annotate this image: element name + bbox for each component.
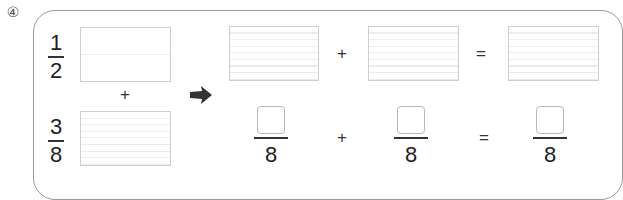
- problem-number: ④: [5, 4, 21, 20]
- fraction-bar: [533, 137, 567, 139]
- plus-operator: +: [332, 44, 352, 64]
- denominator: 8: [394, 143, 428, 167]
- denominator: 2: [48, 59, 64, 83]
- fraction-three-eighths: 3 8: [48, 115, 64, 167]
- equals-operator: =: [474, 128, 494, 148]
- answer-model-box-3[interactable]: [508, 26, 599, 81]
- fraction-bar: [254, 137, 288, 139]
- denominator: 8: [48, 143, 64, 167]
- fraction-one-half: 1 2: [48, 31, 64, 83]
- model-box-eighths[interactable]: [80, 111, 171, 166]
- denominator: 8: [533, 143, 567, 167]
- right-arrow-icon: [188, 85, 214, 105]
- answer-model-box-1[interactable]: [229, 26, 319, 81]
- model-box-halves[interactable]: [80, 27, 171, 82]
- numerator: 3: [48, 115, 64, 139]
- plus-operator: +: [115, 85, 135, 105]
- numerator-input-3[interactable]: [536, 106, 564, 134]
- numerator: 1: [48, 31, 64, 55]
- numerator-input-1[interactable]: [257, 106, 285, 134]
- fraction-bar: [394, 137, 428, 139]
- numerator-input-2[interactable]: [397, 106, 425, 134]
- plus-operator: +: [332, 128, 352, 148]
- answer-model-box-2[interactable]: [368, 26, 459, 81]
- denominator: 8: [254, 143, 288, 167]
- equals-operator: =: [471, 44, 491, 64]
